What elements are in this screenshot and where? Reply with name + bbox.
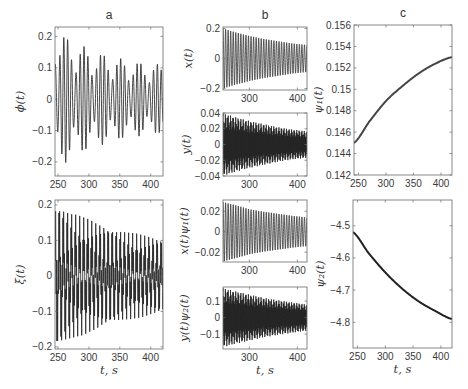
x-tick-label: 350 [405,178,422,189]
y-tick-label: 0.142 [326,170,351,181]
panel-title: b [262,8,269,22]
series-line-x [223,29,307,88]
y-tick-label: 0.144 [326,148,351,159]
y-tick-label: 0.2 [206,23,220,34]
x-axis-label: t, s [394,362,412,376]
x-tick-label: 300 [241,93,258,104]
y-axis-label: ϕ(t) [13,91,27,112]
y-tick-label: −4.7 [330,285,350,296]
y-tick-label: −0.1 [32,306,52,317]
y-axis-label: y(t)ψ₂(t) [177,294,191,342]
x-tick-label: 300 [378,178,395,189]
y-axis-label: ψ₁(t) [311,86,325,113]
panel-c-psi1: 2503003504000.1420.1440.1460.1480.150.15… [311,6,452,189]
x-tick-label: 400 [142,179,159,190]
y-tick-label: 0.2 [38,199,52,210]
y-tick-label: 0 [214,226,220,237]
series-line-psi2 [353,232,452,319]
figure-canvas: 250300350400−0.2−0.100.10.2ϕ(t)a25030035… [0,0,468,389]
y-tick-label: 0 [46,270,52,281]
axes-frame [354,25,452,175]
x-tick-label: 400 [142,352,159,363]
y-tick-label: 0.156 [326,20,351,31]
x-tick-label: 400 [289,179,306,190]
y-tick-label: 0 [214,53,220,64]
y-tick-label: 0.154 [326,41,351,52]
panel-title: c [400,6,406,20]
y-tick-label: 0.2 [38,31,52,42]
y-tick-label: 0.1 [38,235,52,246]
y-axis-label: ψ₂(t) [313,260,327,287]
plot-area [223,288,307,346]
panel-a-phi: 250300350400−0.2−0.100.10.2ϕ(t)a [13,8,163,190]
x-tick-label: 250 [50,179,67,190]
y-axis-label: x(t)ψ₁(t) [177,207,191,254]
y-tick-label: −4.5 [330,220,350,231]
x-tick-label: 300 [241,352,258,363]
plot-area [55,37,163,162]
x-tick-label: 400 [289,265,306,276]
panel-c-psi2: 250300350400−4.8−4.7−4.6−4.5ψ₂(t)t, s [313,200,452,376]
y-axis-label: x(t) [181,48,195,68]
y-tick-label: 0.15 [332,84,352,95]
x-tick-label: 400 [433,178,450,189]
y-tick-label: −0.2 [32,341,52,352]
y-axis-label: ξ(t) [13,265,27,285]
y-tick-label: 0.1 [206,296,220,307]
y-tick-label: 0.02 [201,123,221,134]
x-axis-label: t, s [256,363,274,377]
panel-b-y: 300400−0.04−0.0200.020.04y(t) [179,108,307,191]
x-tick-label: 350 [111,179,128,190]
y-tick-label: −0.04 [195,171,221,182]
x-tick-label: 400 [289,93,306,104]
x-tick-label: 300 [81,179,98,190]
y-tick-label: −4.8 [330,317,350,328]
plot-area [223,202,307,261]
y-tick-label: −0.1 [200,329,220,340]
x-tick-label: 350 [405,351,422,362]
series-line-y [223,113,307,174]
y-tick-label: −0.02 [195,247,221,258]
x-tick-label: 350 [111,352,128,363]
y-tick-label: −4.6 [330,252,350,263]
x-tick-label: 300 [81,352,98,363]
y-tick-label: 0 [214,312,220,323]
series-line-psi1 [354,57,452,143]
y-tick-label: 0.146 [326,127,351,138]
x-tick-label: 400 [289,352,306,363]
y-tick-label: −0.02 [195,155,221,166]
series-line-xi [55,211,163,341]
axes-frame [353,200,452,348]
x-tick-label: 400 [433,351,450,362]
y-tick-label: −0.2 [200,83,220,94]
y-tick-label: 0.02 [201,206,221,217]
x-tick-label: 300 [377,351,394,362]
series-line-y_psi2 [223,288,307,346]
plot-area [353,232,452,319]
series-line-x_psi1 [223,202,307,261]
y-tick-label: −0.1 [32,125,52,136]
panel-b-x-psi1: 300400−0.0200.02x(t)ψ₁(t) [177,200,307,276]
panel-b-y-psi2: 300400−0.100.1y(t)ψ₂(t)t, s [177,287,307,377]
panel-b-x: 300400−0.200.2x(t)b [181,8,307,104]
y-tick-label: 0.04 [201,108,221,119]
y-tick-label: 0.152 [326,62,351,73]
y-tick-label: 0.1 [38,62,52,73]
x-tick-label: 250 [349,351,366,362]
series-line-phi [55,37,163,162]
x-tick-label: 250 [350,178,367,189]
y-tick-label: 0 [214,139,220,150]
x-tick-label: 300 [241,179,258,190]
plot-area [55,211,163,341]
plot-area [223,29,307,88]
x-tick-label: 250 [50,352,67,363]
y-tick-label: 0 [46,94,52,105]
y-axis-label: y(t) [179,134,193,155]
plot-area [223,113,307,174]
panel-title: a [106,8,113,22]
y-tick-label: −0.2 [32,156,52,167]
plot-area [354,57,452,143]
x-tick-label: 300 [241,265,258,276]
panel-a-xi: 250300350400−0.2−0.100.10.2ξ(t)t, s [13,199,163,377]
y-tick-label: 0.148 [326,105,351,116]
